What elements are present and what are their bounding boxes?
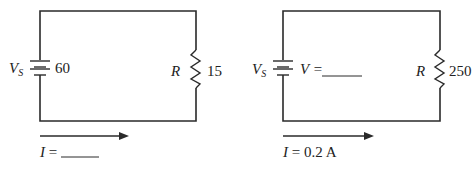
resistor-label: R bbox=[416, 64, 425, 79]
source-value: 60 bbox=[55, 61, 70, 76]
current-label: I = bbox=[40, 145, 57, 160]
source-label: VS bbox=[9, 61, 23, 78]
current-arrow-icon bbox=[40, 132, 129, 140]
source-label: VS bbox=[252, 62, 266, 79]
current-label: I = 0.2 A bbox=[283, 145, 336, 160]
circuit-diagrams bbox=[0, 0, 473, 172]
resistor-label: R bbox=[171, 64, 180, 79]
resistor-value: 250 bbox=[449, 64, 472, 79]
resistor-value: 15 bbox=[207, 64, 222, 79]
battery-icon bbox=[30, 61, 50, 75]
current-arrow-icon bbox=[283, 132, 374, 140]
voltage-label: V = bbox=[300, 62, 323, 77]
resistor-icon bbox=[435, 50, 444, 88]
battery-icon bbox=[273, 61, 293, 75]
resistor-icon bbox=[191, 50, 200, 88]
